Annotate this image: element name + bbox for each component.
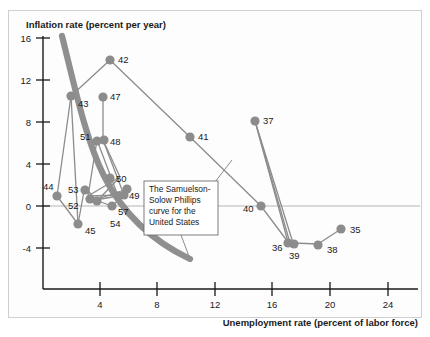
y-tick-8: 8 [26, 117, 31, 128]
point-label-36: 36 [272, 242, 283, 253]
data-point-marker[interactable] [256, 201, 265, 210]
x-tick-8: 8 [154, 299, 159, 310]
data-point-marker[interactable] [313, 240, 322, 249]
data-point-marker[interactable] [289, 239, 298, 248]
x-tick-4: 4 [97, 299, 102, 310]
callout-line-1: The Samuelson- [149, 184, 211, 194]
point-label-47: 47 [110, 91, 121, 102]
data-point-marker[interactable] [92, 136, 101, 145]
point-label-35: 35 [350, 224, 361, 235]
phillips-curve-figure: 16 12 8 4 0 -4 4 8 12 16 20 24 Inflation… [0, 0, 430, 337]
y-tick-12: 12 [20, 75, 31, 86]
point-label-51: 51 [80, 131, 91, 142]
y-axis-title: Inflation rate (percent per year) [26, 19, 166, 30]
callout-line-2: Solow Phillips [149, 195, 201, 205]
point-label-37: 37 [263, 115, 274, 126]
data-point-marker[interactable] [336, 224, 345, 233]
point-label-41: 41 [198, 131, 209, 142]
callout-line-3: curve for the [149, 206, 196, 216]
x-axis-title: Unemployment rate (percent of labor forc… [223, 317, 418, 328]
data-point-marker[interactable] [107, 201, 116, 210]
data-point-marker[interactable] [92, 196, 101, 205]
callout-line-4: United States [149, 217, 199, 227]
point-label-48: 48 [110, 136, 121, 147]
x-tick-12: 12 [210, 299, 221, 310]
data-point-marker[interactable] [52, 191, 61, 200]
data-point-marker[interactable] [105, 173, 114, 182]
point-label-45: 45 [85, 225, 96, 236]
x-tick-16: 16 [267, 299, 278, 310]
point-label-52: 52 [68, 200, 79, 211]
y-axis-tick-labels: 16 12 8 4 0 -4 [20, 33, 31, 254]
data-point-marker[interactable] [250, 116, 259, 125]
point-label-50: 50 [116, 173, 127, 184]
point-label-38: 38 [327, 244, 338, 255]
data-point-marker[interactable] [113, 191, 122, 200]
data-point-marker[interactable] [185, 132, 194, 141]
y-tick-16: 16 [20, 33, 31, 44]
point-label-44: 44 [43, 181, 54, 192]
scatter-chart: 16 12 8 4 0 -4 4 8 12 16 20 24 Inflation… [0, 0, 430, 337]
y-tick-0: 0 [26, 201, 31, 212]
point-label-43: 43 [78, 98, 89, 109]
data-point-marker[interactable] [80, 185, 89, 194]
data-point-marker[interactable] [98, 92, 107, 101]
x-tick-20: 20 [325, 299, 336, 310]
y-tick-neg4: -4 [23, 243, 31, 254]
y-tick-4: 4 [26, 159, 31, 170]
x-tick-24: 24 [383, 299, 394, 310]
point-label-54: 54 [110, 218, 121, 229]
data-point-marker[interactable] [66, 91, 75, 100]
point-label-40: 40 [243, 203, 254, 214]
point-label-53: 53 [68, 184, 79, 195]
x-axis-tick-labels: 4 8 12 16 20 24 [97, 299, 393, 310]
point-label-39: 39 [289, 250, 300, 261]
annotation-callout: The Samuelson- Solow Phillips curve for … [144, 160, 232, 259]
data-point-marker[interactable] [73, 219, 82, 228]
data-point-marker[interactable] [105, 55, 114, 64]
point-label-42: 42 [118, 54, 129, 65]
point-label-57: 57 [118, 206, 129, 217]
point-label-49: 49 [129, 190, 140, 201]
